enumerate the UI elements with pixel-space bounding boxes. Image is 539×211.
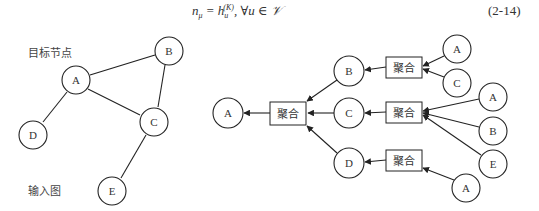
edge-A-B	[90, 55, 155, 75]
svg-text:聚合: 聚合	[393, 61, 415, 75]
formula: nμ = hu(K), ∀u ∈ 𝒱 (2-14)	[192, 3, 521, 20]
svg-text:C: C	[453, 77, 460, 89]
leaf-node-A-of-D: A	[452, 174, 480, 202]
input-graph-label: 输入图	[28, 184, 61, 198]
root-node-A: A	[213, 98, 243, 128]
svg-text:A: A	[453, 43, 461, 55]
leaf-node-B-of-C: B	[479, 117, 507, 145]
edge-C-E	[121, 135, 146, 178]
node-D: D	[19, 121, 47, 149]
svg-text:B: B	[489, 125, 496, 137]
svg-text:D: D	[345, 157, 353, 169]
leaf-node-E-of-C: E	[479, 150, 507, 178]
level1-node-C: C	[334, 98, 364, 128]
svg-text:A: A	[489, 91, 497, 103]
computation-graph: A 聚合 B C D 聚合 聚合 聚合 A C A B E A	[213, 35, 507, 202]
edge-A-C	[88, 89, 140, 115]
level1-node-D: D	[334, 148, 364, 178]
edge-B-C	[158, 65, 165, 107]
svg-text:C: C	[345, 107, 352, 119]
aggregate-box-B: 聚合	[386, 57, 422, 78]
target-node-label: 目标节点	[28, 46, 72, 60]
leaf-node-A-of-C: A	[479, 83, 507, 111]
aggregate-box-C: 聚合	[386, 102, 422, 123]
svg-text:A: A	[224, 107, 232, 119]
svg-text:B: B	[345, 65, 352, 77]
svg-text:A: A	[72, 74, 80, 86]
svg-text:A: A	[462, 182, 470, 194]
svg-text:E: E	[109, 185, 116, 197]
svg-text:E: E	[490, 158, 497, 170]
formula-text: nμ = hu(K), ∀u ∈ 𝒱	[192, 3, 286, 20]
svg-text:聚合: 聚合	[277, 107, 299, 121]
leaf-node-C-of-B: C	[443, 69, 471, 97]
svg-text:聚合: 聚合	[393, 154, 415, 168]
edge-A-D	[43, 92, 67, 122]
node-E: E	[98, 177, 126, 205]
svg-text:B: B	[165, 45, 172, 57]
leaf-node-A-of-B: A	[443, 35, 471, 63]
level1-node-B: B	[334, 56, 364, 86]
node-B: B	[155, 37, 183, 65]
gnn-aggregation-diagram: nμ = hu(K), ∀u ∈ 𝒱 (2-14) A B C D E 目标节点…	[0, 0, 539, 211]
root-aggregate-box: 聚合	[270, 102, 306, 125]
aggregate-box-D: 聚合	[386, 150, 422, 171]
node-C: C	[140, 108, 168, 136]
svg-text:D: D	[29, 129, 37, 141]
svg-text:聚合: 聚合	[393, 106, 415, 120]
svg-text:C: C	[150, 116, 157, 128]
equation-number: (2-14)	[488, 3, 521, 18]
node-A: A	[62, 66, 90, 94]
